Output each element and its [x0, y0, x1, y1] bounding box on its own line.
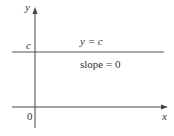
y-axis-arrow-icon: [33, 7, 38, 14]
x-axis-arrow-icon: [161, 105, 168, 110]
origin-label: 0: [27, 111, 33, 122]
y-intercept-label: c: [26, 40, 31, 51]
y-axis-label: y: [25, 2, 30, 13]
slope-annotation: slope = 0: [80, 59, 120, 70]
x-axis-label: x: [162, 111, 167, 122]
y-axis: [33, 7, 38, 128]
line-equation: y = c: [80, 36, 103, 47]
